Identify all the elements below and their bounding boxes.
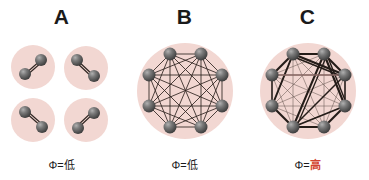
panel-c: C	[246, 0, 369, 180]
graph-node	[195, 121, 208, 134]
panel-b-diagram	[123, 36, 246, 148]
graph-node	[35, 54, 47, 66]
graph-node	[287, 121, 300, 134]
panel-a-blobs	[11, 45, 108, 142]
panel-c-diagram	[246, 36, 369, 148]
graph-node	[164, 48, 177, 61]
graph-node	[216, 69, 229, 82]
graph-node	[339, 100, 352, 113]
panel-c-letter: C	[246, 6, 369, 28]
panel-c-phi-value: 高	[310, 159, 321, 171]
panel-c-svg	[246, 36, 369, 148]
graph-node	[318, 121, 331, 134]
panel-b-phi-prefix: Φ=	[171, 159, 186, 171]
graph-node	[339, 69, 352, 82]
panel-c-phi-prefix: Φ=	[294, 159, 309, 171]
panel-c-caption: Φ=高	[246, 158, 369, 172]
panel-b-svg	[123, 36, 246, 148]
graph-node	[143, 100, 156, 113]
graph-node	[19, 106, 31, 118]
figure-canvas: A	[0, 0, 369, 180]
panel-a-phi-prefix: Φ=	[48, 159, 63, 171]
panel-a-diagram	[0, 36, 123, 148]
panel-b-phi-value: 低	[187, 159, 198, 171]
panel-a-caption: Φ=低	[0, 158, 123, 172]
graph-node	[287, 48, 300, 61]
graph-node	[88, 107, 100, 119]
panel-a-phi-value: 低	[64, 159, 75, 171]
graph-node	[71, 54, 83, 66]
panel-b-letter: B	[123, 6, 246, 28]
panel-b: B	[123, 0, 246, 180]
graph-node	[72, 122, 84, 134]
graph-node	[195, 48, 208, 61]
graph-node	[36, 121, 48, 133]
graph-node	[266, 100, 279, 113]
graph-node	[266, 69, 279, 82]
graph-node	[143, 69, 156, 82]
graph-node	[216, 100, 229, 113]
module-blob	[11, 98, 55, 142]
graph-node	[88, 70, 100, 82]
graph-node	[19, 68, 31, 80]
graph-node	[318, 48, 331, 61]
panel-a-svg	[0, 36, 123, 148]
panel-a-letter: A	[0, 6, 123, 28]
graph-node	[164, 121, 177, 134]
panel-b-caption: Φ=低	[123, 158, 246, 172]
panel-a: A	[0, 0, 123, 180]
